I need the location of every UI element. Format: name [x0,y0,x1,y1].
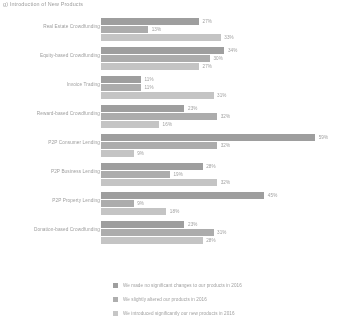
bar [101,63,199,70]
bar [101,34,221,41]
legend-swatch-icon [113,283,118,288]
category-label: P2P Property Lending [0,198,100,203]
legend-item[interactable]: We made no significant changes to our pr… [113,278,343,292]
bar [101,134,315,141]
bar-value-label: 28% [206,164,216,169]
bar-value-label: 32% [221,114,231,119]
bar-row[interactable]: 9% [101,200,144,207]
chart-legend: We made no significant changes to our pr… [113,278,343,320]
bar-row[interactable]: 11% [101,76,154,83]
bar [101,47,224,54]
bar-value-label: 19% [173,172,183,177]
bar-row[interactable]: 32% [101,142,230,149]
bar-value-label: 30% [213,56,223,61]
bar-row[interactable]: 59% [101,134,328,141]
bar [101,229,214,236]
bar-value-label: 32% [221,180,231,185]
bar-value-label: 16% [163,122,173,127]
category-label: P2P Consumer Lending [0,140,100,145]
bar-value-label: 18% [170,209,180,214]
bar-row[interactable]: 28% [101,237,216,244]
legend-item[interactable]: We slightly altered our products in 2016 [113,292,343,306]
bar [101,142,217,149]
bar-group: Donation-based Crowdfunding23%31%28% [0,218,345,247]
bar [101,221,184,228]
bar-value-label: 28% [206,238,216,243]
bar-row[interactable]: 19% [101,171,183,178]
bar [101,105,184,112]
bar [101,150,134,157]
bar-row[interactable]: 30% [101,55,223,62]
bar [101,113,217,120]
bar [101,18,199,25]
bar-value-label: 34% [228,48,238,53]
bar-row[interactable]: 23% [101,105,197,112]
bar [101,121,159,128]
bar-value-label: 23% [188,106,198,111]
bar [101,237,203,244]
bar [101,179,217,186]
bar [101,192,264,199]
bar-row[interactable]: 23% [101,221,197,228]
bar [101,163,203,170]
bar [101,84,141,91]
bar-row[interactable]: 31% [101,92,227,99]
legend-item[interactable]: We introduced significantly our new prod… [113,306,343,320]
bar-value-label: 11% [144,85,153,90]
legend-item-label: We slightly altered our products in 2016 [123,297,207,302]
bar-value-label: 9% [137,151,144,156]
bar-value-label: 32% [221,143,231,148]
bar-value-label: 59% [319,135,329,140]
bar-row[interactable]: 11% [101,84,154,91]
bar-row[interactable]: 9% [101,150,144,157]
bar-group: Invoice Trading11%11%31% [0,73,345,102]
bar-value-label: 31% [217,230,227,235]
bar [101,200,134,207]
legend-item-label: We made no significant changes to our pr… [123,283,242,288]
bar-row[interactable]: 16% [101,121,172,128]
bar-group: P2P Consumer Lending59%32%9% [0,131,345,160]
category-label: P2P Business Lending [0,169,100,174]
bar-row[interactable]: 18% [101,208,179,215]
chart-figure: g) Introduction of New Products Real Est… [0,0,345,324]
bar-row[interactable]: 27% [101,18,212,25]
bar-value-label: 45% [268,193,278,198]
bar-value-label: 23% [188,222,198,227]
category-label: Real Estate Crowdfunding [0,24,100,29]
legend-item-label: We introduced significantly our new prod… [123,311,235,316]
bar-row[interactable]: 13% [101,26,161,33]
bar-row[interactable]: 31% [101,229,227,236]
bar-row[interactable]: 33% [101,34,234,41]
category-label: Donation-based Crowdfunding [0,227,100,232]
bar-value-label: 9% [137,201,144,206]
legend-swatch-icon [113,311,118,316]
bar [101,26,148,33]
bar-row[interactable]: 32% [101,179,230,186]
bar-row[interactable]: 28% [101,163,216,170]
legend-swatch-icon [113,297,118,302]
bar [101,55,210,62]
bar [101,208,166,215]
bar-value-label: 33% [224,35,234,40]
bar-value-label: 27% [203,19,213,24]
bar-row[interactable]: 27% [101,63,212,70]
category-label: Invoice Trading [0,82,100,87]
bar [101,92,214,99]
category-label: Equity-based Crowdfunding [0,53,100,58]
bar-value-label: 11% [144,77,153,82]
bar-group: Reward-based Crowdfunding23%32%16% [0,102,345,131]
category-label: Reward-based Crowdfunding [0,111,100,116]
bar-value-label: 31% [217,93,227,98]
bar-group: Real Estate Crowdfunding27%13%33% [0,15,345,44]
bar-row[interactable]: 32% [101,113,230,120]
bar [101,76,141,83]
bar-value-label: 13% [152,27,162,32]
bar-group: P2P Business Lending28%19%32% [0,160,345,189]
bar [101,171,170,178]
bar-row[interactable]: 45% [101,192,277,199]
chart-title: g) Introduction of New Products [3,1,83,7]
bar-group: P2P Property Lending45%9%18% [0,189,345,218]
bar-row[interactable]: 34% [101,47,237,54]
plot-area: Real Estate Crowdfunding27%13%33%Equity-… [0,12,345,270]
bar-group: Equity-based Crowdfunding34%30%27% [0,44,345,73]
